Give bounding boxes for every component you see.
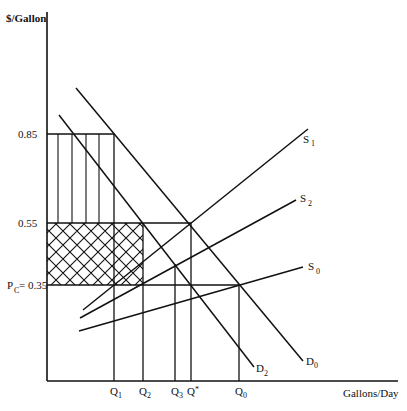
label-d0: D 0 [306, 355, 318, 370]
cross-hatched-area [47, 223, 143, 285]
svg-text:S: S [308, 260, 314, 272]
x-tick-q0: Q0 [235, 385, 247, 400]
svg-text:Q: Q [171, 385, 179, 397]
svg-text:1: 1 [311, 139, 315, 148]
x-tick-q2: Q2 [139, 385, 151, 400]
svg-text:Q: Q [139, 385, 147, 397]
x-tick-qstar: Q* [187, 385, 199, 397]
y-tick-055: 0.55 [18, 217, 38, 229]
svg-text:D: D [256, 362, 264, 374]
x-axis-title: Gallons/Day [343, 387, 399, 399]
curve-s1 [83, 129, 308, 310]
label-d2: D 2 [256, 362, 268, 378]
svg-text:Q: Q [235, 385, 243, 397]
svg-text:3: 3 [179, 391, 183, 400]
svg-text:S: S [303, 133, 309, 145]
label-s2: S 2 [300, 192, 312, 208]
vertical-hatched-area [58, 134, 99, 223]
svg-text:2: 2 [264, 369, 268, 378]
svg-text:*: * [195, 385, 199, 394]
svg-text:1: 1 [118, 391, 122, 400]
x-tick-q1: Q1 [110, 385, 122, 400]
supply-demand-chart: $/Gallon Gallons/Day 0.85 0.55 P C = 0.3… [0, 0, 407, 411]
y-axis-title: $/Gallon [6, 12, 46, 24]
svg-text:0: 0 [316, 267, 320, 276]
svg-text:S: S [300, 192, 306, 204]
x-tick-q3: Q3 [171, 385, 183, 400]
svg-text:2: 2 [147, 391, 151, 400]
svg-text:0: 0 [314, 361, 318, 370]
y-tick-085: 0.85 [18, 128, 38, 140]
svg-text:D: D [306, 355, 314, 367]
svg-text:2: 2 [308, 199, 312, 208]
svg-text:Q: Q [187, 385, 195, 397]
label-s0: S 0 [308, 260, 320, 276]
svg-text:= 0.35: = 0.35 [19, 279, 48, 291]
svg-text:P: P [7, 279, 13, 291]
svg-text:0: 0 [243, 391, 247, 400]
label-s1: S 1 [303, 133, 315, 148]
y-tick-pc-035: P C = 0.35 [7, 279, 48, 295]
svg-text:Q: Q [110, 385, 118, 397]
